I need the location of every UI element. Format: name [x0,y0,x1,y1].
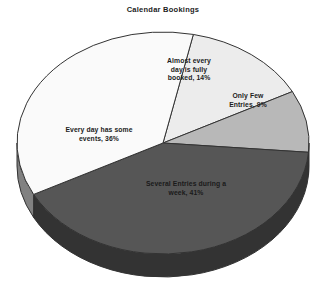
pie-chart-figure: Calendar Bookings Almost every day is fu… [0,0,326,296]
pie-slices [17,32,309,254]
pie-chart-graphic [0,0,326,296]
